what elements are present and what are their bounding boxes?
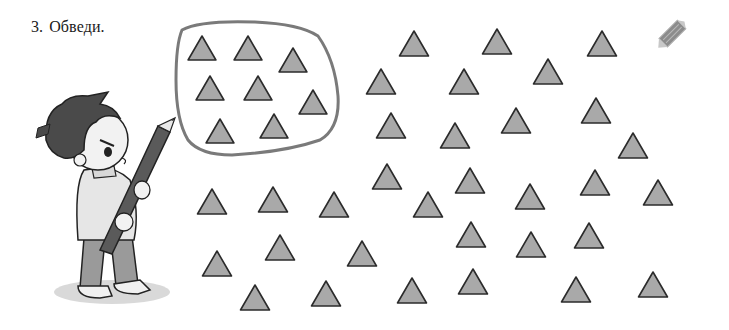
triangle-icon bbox=[312, 281, 341, 306]
triangle-icon bbox=[259, 187, 288, 212]
triangle-icon bbox=[639, 272, 668, 297]
triangle-icon bbox=[517, 232, 546, 257]
pencil-icon bbox=[654, 16, 688, 54]
triangle-icon bbox=[534, 59, 563, 84]
triangle-icon bbox=[398, 278, 427, 303]
triangle-icon-circled bbox=[188, 36, 216, 60]
triangle-icon bbox=[450, 69, 479, 94]
triangle-icon bbox=[367, 69, 396, 94]
triangle-icon bbox=[457, 222, 486, 247]
triangle-icon bbox=[373, 164, 402, 189]
triangle-icon bbox=[644, 180, 673, 205]
triangle-icon bbox=[266, 235, 295, 260]
triangle-icon-circled bbox=[279, 48, 307, 72]
triangle-icon bbox=[377, 113, 406, 138]
triangle-icon bbox=[456, 168, 485, 193]
triangle-icon-circled bbox=[196, 76, 224, 100]
triangle-icon bbox=[581, 170, 610, 195]
triangle-icon bbox=[414, 192, 443, 217]
triangle-icon bbox=[198, 189, 227, 214]
triangle-icon-circled bbox=[244, 76, 272, 100]
triangle-icon bbox=[516, 184, 545, 209]
triangle-icon bbox=[562, 277, 591, 302]
triangle-icon bbox=[459, 269, 488, 294]
triangle-icon bbox=[575, 223, 604, 248]
triangle-icon bbox=[588, 31, 617, 56]
triangle-icon bbox=[241, 285, 270, 310]
triangle-icon bbox=[441, 123, 470, 148]
triangle-icon-circled bbox=[206, 119, 234, 143]
triangle-icon-circled bbox=[299, 90, 327, 114]
triangle-icon bbox=[400, 31, 429, 56]
triangle-icon bbox=[582, 98, 611, 123]
triangle-icon bbox=[483, 29, 512, 54]
loose-triangles-group bbox=[198, 29, 673, 310]
triangle-icon bbox=[619, 133, 648, 158]
worksheet-canvas bbox=[0, 0, 729, 330]
triangle-icon-circled bbox=[234, 36, 262, 60]
triangle-icon bbox=[348, 241, 377, 266]
boy-with-pencil-illustration bbox=[36, 92, 175, 304]
triangle-icon bbox=[203, 251, 232, 276]
triangle-icon-circled bbox=[260, 114, 288, 138]
triangle-icon bbox=[502, 108, 531, 133]
circled-triangles-group bbox=[188, 36, 327, 143]
triangle-icon bbox=[320, 192, 349, 217]
